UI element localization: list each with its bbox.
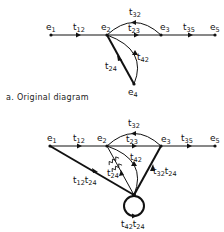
node-e3-b	[159, 144, 162, 147]
node-e3	[159, 33, 162, 36]
node-e4	[132, 82, 135, 85]
label-e2-b: e2	[97, 133, 107, 145]
label-t35: t35	[183, 22, 195, 34]
label-t12t24: t12t24	[73, 175, 97, 187]
arrow-t12t24	[92, 168, 98, 173]
arrow-self-loop	[132, 214, 137, 219]
arrow-t32	[131, 20, 136, 25]
signal-flow-diagrams: e1 e2 e3 e5 e4 t12 t23 t32 t35 t24 t42 a…	[0, 0, 224, 232]
label-e5-b: e5	[210, 133, 220, 145]
diagram-b: e1 e2 e3 e5 t12 t23 t32 t35 t42 t24 t12t…	[47, 118, 220, 231]
caption-a: a. Original diagram	[6, 93, 89, 102]
label-t12-b: t12	[73, 133, 85, 145]
node-e4-b	[132, 193, 136, 197]
label-e1: e1	[46, 22, 56, 34]
label-e3: e3	[160, 22, 170, 34]
label-e2: e2	[101, 22, 111, 34]
label-t24-b: t24	[107, 168, 119, 180]
label-t42: t42	[137, 52, 149, 64]
branch-t12t24	[50, 146, 134, 195]
label-t32t24: t32t24	[153, 166, 177, 178]
label-e1-b: e1	[47, 133, 57, 145]
label-t32-b: t32	[128, 118, 140, 130]
label-e4: e4	[128, 87, 138, 99]
label-t23-b: t23	[126, 134, 138, 146]
label-t32: t32	[129, 7, 141, 19]
label-e5: e5	[210, 22, 220, 34]
label-t12: t12	[73, 22, 85, 34]
node-e1-b	[48, 144, 51, 147]
arrow-t24-b	[119, 170, 124, 176]
label-t42t24: t42t24	[121, 219, 145, 231]
label-t24: t24	[105, 61, 117, 73]
label-t23: t23	[128, 23, 140, 35]
arrow-t32-b	[131, 131, 136, 136]
label-e3-b: e3	[161, 134, 171, 146]
self-loop-t42t24	[124, 196, 144, 216]
label-t35-b: t35	[181, 133, 193, 145]
diagram-a: e1 e2 e3 e5 e4 t12 t23 t32 t35 t24 t42 a…	[6, 7, 220, 102]
